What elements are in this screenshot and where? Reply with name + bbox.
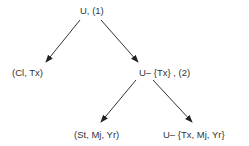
edge-root-left1 — [46, 20, 80, 62]
edge-root-right1 — [101, 20, 138, 62]
node-root: U, (1) — [80, 6, 104, 16]
node-left2: (St, Mj, Yr) — [74, 130, 119, 140]
node-left1: (Cl, Tx) — [12, 68, 43, 78]
edge-right1-right2 — [153, 80, 192, 122]
node-right2: U– {Tx, Mj, Yr} — [163, 130, 225, 140]
node-right1: U– {Tx} , (2) — [139, 68, 190, 78]
edge-right1-left2 — [101, 80, 136, 122]
